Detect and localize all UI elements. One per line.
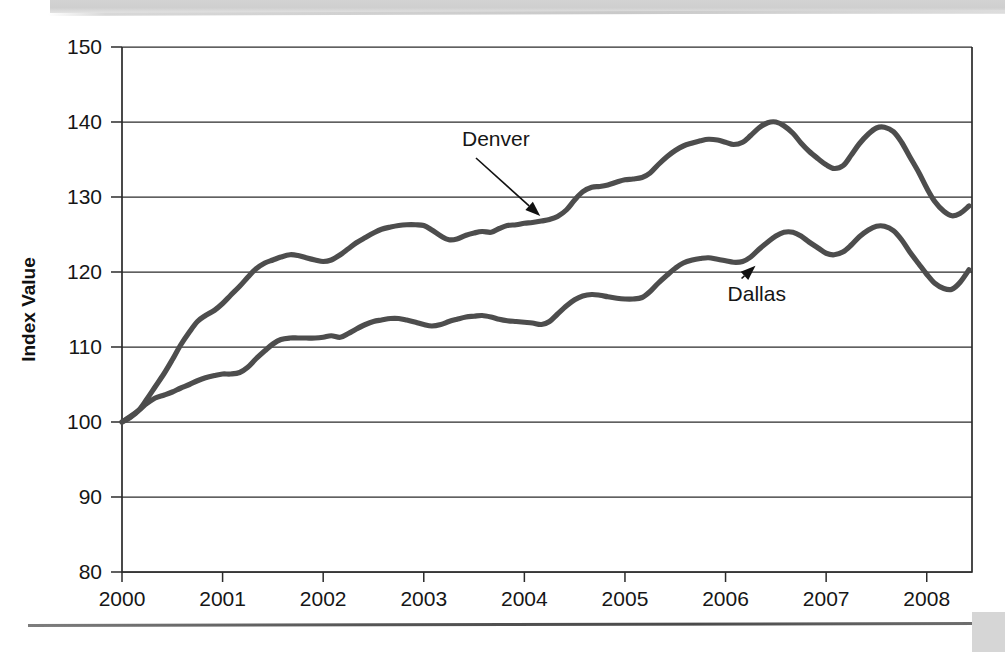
y-tick-label-100: 100 <box>67 410 102 433</box>
callout-label-denver: Denver <box>462 127 530 150</box>
y-tick-label-130: 130 <box>67 185 102 208</box>
x-axis-ticks: 200020012002200320042005200620072008 <box>99 572 950 610</box>
x-tick-label-2007: 2007 <box>803 587 850 610</box>
callout-leader-dallas <box>742 276 745 279</box>
y-tick-label-110: 110 <box>69 335 102 358</box>
y-axis-title: Index Value <box>18 257 39 362</box>
x-tick-label-2003: 2003 <box>400 587 447 610</box>
line-chart: 8090100110120130140150 20002001200220032… <box>0 16 1005 616</box>
axis-frame <box>122 47 972 572</box>
callout-leader-denver <box>476 158 529 206</box>
y-tick-label-150: 150 <box>67 35 102 58</box>
y-axis-ticks: 8090100110120130140150 <box>67 35 122 583</box>
x-tick-label-2006: 2006 <box>702 587 749 610</box>
y-tick-label-120: 120 <box>67 260 102 283</box>
x-tick-label-2004: 2004 <box>501 587 548 610</box>
axis-lines <box>122 47 972 572</box>
gridlines <box>122 47 972 572</box>
y-tick-label-140: 140 <box>67 110 102 133</box>
chart-canvas: 8090100110120130140150 20002001200220032… <box>0 16 1005 616</box>
y-tick-label-90: 90 <box>79 485 102 508</box>
page-bottom-rule <box>28 622 978 627</box>
x-tick-label-2005: 2005 <box>602 587 649 610</box>
page-corner-marker <box>972 612 1005 652</box>
x-tick-label-2000: 2000 <box>99 587 146 610</box>
series-line-dallas <box>122 226 969 422</box>
y-tick-label-80: 80 <box>79 560 102 583</box>
callout-label-dallas: Dallas <box>728 282 786 305</box>
x-tick-label-2001: 2001 <box>199 587 246 610</box>
x-tick-label-2002: 2002 <box>300 587 347 610</box>
x-tick-label-2008: 2008 <box>903 587 950 610</box>
y-axis-title-text: Index Value <box>18 257 39 362</box>
series-callouts: DenverDallas <box>462 127 786 305</box>
scanned-page: 8090100110120130140150 20002001200220032… <box>0 0 1005 652</box>
